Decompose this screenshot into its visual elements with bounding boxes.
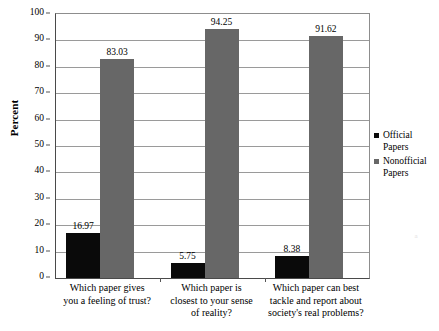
y-tick-label: 70 [10, 87, 44, 97]
y-tick-mark [46, 39, 50, 40]
y-tick-label: 20 [10, 219, 44, 229]
chart-legend: OfficialPapersNonofficialPapers [374, 130, 439, 182]
x-axis-category-labels: Which paper givesyou a feeling of trust?… [55, 282, 368, 331]
x-category-label-line: Which paper is [159, 282, 263, 295]
y-tick-mark [46, 118, 50, 119]
bar-value-label: 94.25 [211, 17, 232, 27]
y-tick-mark [46, 92, 50, 93]
bar-chart-figure: Percent 1009080706050403020100 16.9783.0… [0, 0, 439, 331]
bar-value-label: 5.75 [179, 251, 196, 261]
y-tick-label: 30 [10, 193, 44, 203]
y-tick-mark [46, 145, 50, 146]
legend-entry: NonofficialPapers [374, 156, 439, 179]
bar-value-label: 8.38 [284, 244, 301, 254]
bar-official [275, 256, 309, 278]
y-tick-mark [46, 250, 50, 251]
y-tick-mark [46, 13, 50, 14]
x-category-label-line: Which paper gives [55, 282, 159, 295]
x-category-label-line: society's real problems? [264, 307, 368, 320]
y-tick-mark [46, 197, 50, 198]
x-category-label: Which paper givesyou a feeling of trust? [55, 282, 159, 307]
nonofficial-swatch-icon [374, 159, 379, 164]
bar-value-label: 83.03 [106, 47, 127, 57]
legend-label-line: Papers [383, 142, 439, 154]
y-tick-label: 10 [10, 246, 44, 256]
x-category-label: Which paper can besttackle and report ab… [264, 282, 368, 320]
y-tick-mark [46, 224, 50, 225]
bars-layer: 16.9783.035.7594.258.3891.62 [56, 14, 369, 278]
scan-artifact: a [410, 232, 422, 258]
x-category-label: Which paper isclosest to your senseof re… [159, 282, 263, 320]
y-tick-mark [46, 65, 50, 66]
y-axis-ticks: 1009080706050403020100 [0, 0, 55, 331]
official-swatch-icon [374, 133, 379, 138]
bar-nonofficial [309, 36, 343, 278]
legend-label-line: Papers [383, 168, 439, 180]
y-tick-mark [46, 171, 50, 172]
y-tick-label: 50 [10, 140, 44, 150]
y-tick-label: 100 [10, 8, 44, 18]
x-category-label-line: tackle and report about [264, 295, 368, 308]
legend-label-line: Nonofficial [383, 156, 439, 168]
x-category-label-line: closest to your sense [159, 295, 263, 308]
y-tick-label: 60 [10, 114, 44, 124]
y-tick-label: 0 [10, 272, 44, 282]
y-tick-label: 90 [10, 35, 44, 45]
y-tick-mark [46, 277, 50, 278]
bar-nonofficial [205, 29, 239, 278]
bar-value-label: 91.62 [315, 24, 336, 34]
legend-label-line: Official [383, 130, 439, 142]
y-tick-label: 80 [10, 61, 44, 71]
y-tick-label: 40 [10, 167, 44, 177]
bar-official [66, 233, 100, 278]
bar-value-label: 16.97 [72, 221, 93, 231]
x-category-label-line: of reality? [159, 307, 263, 320]
bar-official [171, 263, 205, 278]
bar-nonofficial [100, 59, 134, 278]
x-category-label-line: Which paper can best [264, 282, 368, 295]
legend-entry: OfficialPapers [374, 130, 439, 153]
x-category-label-line: you a feeling of trust? [55, 295, 159, 308]
plot-area: 16.9783.035.7594.258.3891.62 [55, 13, 370, 279]
